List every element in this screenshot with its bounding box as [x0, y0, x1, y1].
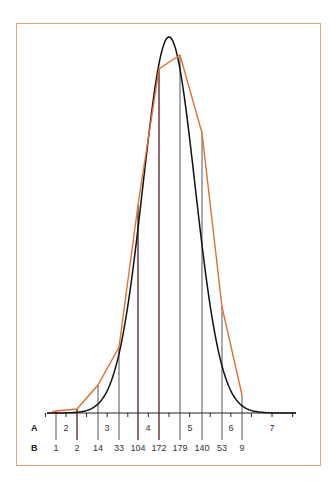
a-axis-label: 5	[187, 423, 192, 433]
row-label-b: B	[31, 443, 38, 453]
a-axis-label: 7	[269, 423, 274, 433]
b-value-label: 140	[194, 443, 209, 453]
a-axis-label: 2	[63, 423, 68, 433]
a-axis-labels: 234567	[63, 423, 274, 433]
b-value-label: 104	[130, 443, 145, 453]
b-value-label: 2	[74, 443, 79, 453]
row-label-a: A	[31, 423, 38, 433]
frequency-bars	[56, 55, 242, 440]
normal-curve	[47, 37, 296, 413]
b-value-label: 179	[172, 443, 187, 453]
x-axis-ticks	[45, 413, 292, 417]
b-value-label: 14	[93, 443, 103, 453]
frequency-polygon	[52, 55, 242, 412]
b-value-label: 1	[53, 443, 58, 453]
b-value-labels: 121433104172179140539	[53, 443, 244, 453]
a-axis-label: 3	[104, 423, 109, 433]
b-value-label: 172	[151, 443, 166, 453]
normal-distribution-chart: A B 234567 121433104172179140539	[0, 0, 331, 481]
b-value-label: 33	[114, 443, 124, 453]
a-axis-label: 4	[145, 423, 150, 433]
b-value-label: 53	[217, 443, 227, 453]
b-value-label: 9	[239, 443, 244, 453]
a-axis-label: 6	[228, 423, 233, 433]
